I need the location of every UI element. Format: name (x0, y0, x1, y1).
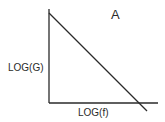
trend-line (49, 13, 147, 111)
panel-label: A (111, 7, 120, 22)
y-axis-label: LOG(G) (8, 62, 44, 73)
diagram-figure: A LOG(G) LOG(f) (0, 0, 165, 122)
x-axis-label: LOG(f) (78, 107, 109, 118)
